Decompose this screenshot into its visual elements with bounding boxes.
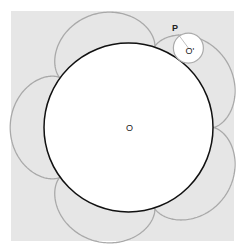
epicycloid-diagram: O O' P xyxy=(0,0,243,252)
label-o-prime: O' xyxy=(185,46,194,56)
label-p: P xyxy=(172,23,178,33)
label-o: O xyxy=(126,123,133,133)
